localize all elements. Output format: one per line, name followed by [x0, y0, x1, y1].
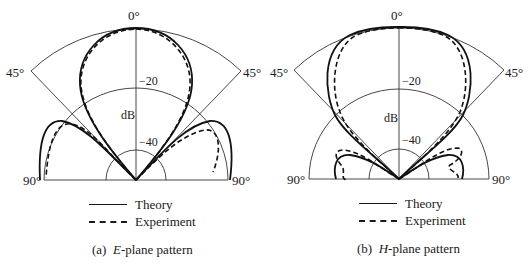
e-plane-caption: (a) E-plane pattern	[92, 243, 193, 256]
h-plane-ring-40: −40	[402, 134, 421, 146]
h-plane-angle-right-90: 90°	[492, 173, 510, 186]
e-plane-ring-20: −20	[139, 75, 158, 87]
h-plane-db-label: dB	[384, 112, 398, 124]
e-plane-legend-experiment: Experiment	[89, 215, 196, 228]
e-plane-angle-right-45: 45°	[243, 66, 261, 79]
h-plane-grid	[294, 27, 504, 179]
h-plane-angle-right-45: 45°	[505, 66, 523, 79]
e-plane-angle-left-90: 90°	[23, 174, 41, 187]
legend-label: Theory	[405, 197, 443, 210]
h-plane-experiment-curve	[335, 28, 466, 180]
h-plane-legend-experiment: Experiment	[359, 214, 466, 227]
e-plane-grid	[31, 28, 241, 180]
e-plane-legend-theory: Theory	[89, 198, 173, 211]
e-plane-angle-left-45: 45°	[6, 66, 24, 79]
dashed-line-icon	[89, 221, 127, 223]
legend-label: Experiment	[135, 215, 196, 228]
legend-label: Theory	[135, 198, 173, 211]
h-plane-angle-0: 0°	[391, 9, 403, 22]
h-plane-ring-20: −20	[402, 75, 421, 87]
h-plane-angle-left-90: 90°	[287, 173, 305, 186]
h-plane-angle-left-45: 45°	[270, 66, 288, 79]
solid-line-icon	[359, 203, 397, 204]
e-plane-angle-0: 0°	[128, 9, 140, 22]
e-plane-experiment-curve	[46, 29, 218, 180]
dashed-line-icon	[359, 220, 397, 222]
legend-label: Experiment	[405, 214, 466, 227]
h-plane-caption: (b) H-plane pattern	[357, 242, 460, 255]
solid-line-icon	[89, 204, 127, 205]
e-plane-angle-right-90: 90°	[232, 174, 250, 187]
e-plane-ring-40: −40	[139, 136, 158, 148]
h-plane-legend-theory: Theory	[359, 197, 443, 210]
e-plane-db-label: dB	[121, 109, 135, 121]
